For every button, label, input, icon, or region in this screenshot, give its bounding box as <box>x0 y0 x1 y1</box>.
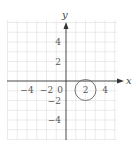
y-tick-label: 2 <box>55 57 61 67</box>
x-tick-label: 4 <box>102 85 108 95</box>
x-axis <box>7 79 124 84</box>
x-tick-label: −2 <box>40 85 53 95</box>
y-axis-arrow-icon <box>64 22 69 29</box>
x-tick-label: 0 <box>57 85 63 95</box>
coordinate-plane: x y −4 −2 0 2 4 4 2 −2 −4 <box>0 0 139 146</box>
y-axis-label: y <box>61 9 68 20</box>
x-tick-label: 2 <box>83 85 89 95</box>
y-tick-label: −4 <box>48 115 62 125</box>
grid <box>8 20 118 140</box>
x-axis-label: x <box>126 75 132 86</box>
x-axis-arrow-icon <box>117 79 124 84</box>
x-tick-label: −4 <box>20 85 34 95</box>
y-tick-label: −2 <box>48 96 61 106</box>
y-tick-label: 4 <box>55 37 61 47</box>
